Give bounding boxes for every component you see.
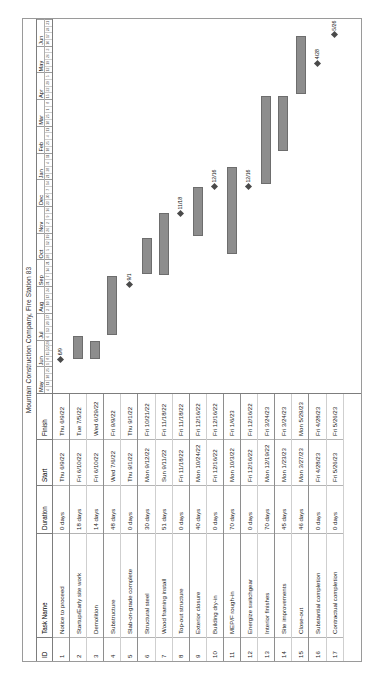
column-header-id[interactable]: ID <box>37 637 52 661</box>
task-name-cell: Energize switchgear <box>241 533 257 637</box>
task-finish-cell: Fri 12/16/22 <box>207 393 223 439</box>
task-id-cell: 17 <box>327 637 343 661</box>
task-start-cell: Wed 7/6/22 <box>104 439 120 485</box>
week-tick: 19 <box>45 234 52 240</box>
gantt-bar[interactable] <box>278 96 288 150</box>
milestone-date-label: 5/26 <box>331 21 337 31</box>
week-tick: 10 <box>45 299 52 306</box>
table-row[interactable]: 1Notice to proceed0 daysThu 6/9/22Thu 6/… <box>53 394 70 661</box>
gantt-row <box>190 19 207 393</box>
task-id-cell: 15 <box>292 637 308 661</box>
week-tick: 4 <box>45 159 52 166</box>
task-start-cell: Fri 4/28/23 <box>309 439 325 485</box>
task-finish-cell: Fri 10/21/22 <box>138 393 154 439</box>
task-duration-cell: 46 days <box>292 485 308 533</box>
gantt-chart-sheet: Mountain Construction Company, Fire Stat… <box>22 18 362 662</box>
task-id-cell: 13 <box>258 637 274 661</box>
task-name-cell: Notice to proceed <box>53 533 69 637</box>
week-tick: 22 <box>45 345 52 350</box>
table-body: 1Notice to proceed0 daysThu 6/9/22Thu 6/… <box>53 394 344 661</box>
milestone-diamond-icon[interactable] <box>126 281 133 288</box>
gantt-bar[interactable] <box>193 187 203 236</box>
task-start-cell: Mon 12/19/22 <box>258 439 274 485</box>
table-row[interactable]: 12Energize switchgear0 daysFri 12/16/22F… <box>241 394 258 661</box>
month-label: Jul <box>37 313 44 340</box>
week-tick: 11 <box>45 154 52 160</box>
task-name-cell: Contractual completion <box>327 533 343 637</box>
gantt-bar[interactable] <box>107 276 117 335</box>
table-row[interactable]: 9Exterior closure40 daysMon 10/24/22Fri … <box>190 394 207 661</box>
table-row[interactable]: 16Substantial completion0 daysFri 4/28/2… <box>309 394 326 661</box>
week-tick: 26 <box>45 52 52 59</box>
column-header-duration[interactable]: Duration <box>37 485 52 533</box>
table-row[interactable]: 6Structural steel30 daysMon 9/12/22Fri 1… <box>138 394 155 661</box>
milestone-diamond-icon[interactable] <box>211 183 218 190</box>
table-row[interactable]: 13Interior finishes70 daysMon 12/19/22Fr… <box>258 394 275 661</box>
week-tick-group: 6132027 <box>45 313 52 340</box>
table-row[interactable]: 2Startup/Early site work18 daysFri 6/10/… <box>70 394 87 661</box>
milestone-diamond-icon[interactable] <box>57 356 64 363</box>
month-label: Oct <box>37 233 44 260</box>
week-tick: 25 <box>45 139 52 146</box>
table-row[interactable]: 4Substructure48 daysWed 7/6/22Fri 9/9/22 <box>104 394 121 661</box>
week-tick: 4 <box>45 132 52 139</box>
gantt-row: 9/1 <box>121 19 138 393</box>
timeline-pane: MayJunJulAugSepOctNovDecJanFebMarAprMayJ… <box>36 19 361 393</box>
gantt-bar[interactable] <box>90 341 100 358</box>
gantt-bar[interactable] <box>227 167 237 254</box>
table-row[interactable]: 8Top-out structure0 daysFri 11/18/22Fri … <box>173 394 190 661</box>
gantt-bar[interactable] <box>73 336 83 358</box>
task-start-cell: Mon 10/3/22 <box>224 439 240 485</box>
gantt-bar[interactable] <box>261 96 271 184</box>
week-tick: 20 <box>45 320 52 327</box>
task-name-cell: Site improvements <box>275 533 291 637</box>
table-row[interactable]: 10Building dry-in0 daysFri 12/16/22Fri 1… <box>207 394 224 661</box>
table-row[interactable]: 15Close-out46 daysMon 3/27/23Mon 5/29/23 <box>292 394 309 661</box>
table-row[interactable]: 7Wood framing install51 daysSun 9/11/22F… <box>156 394 173 661</box>
task-start-cell: Mon 3/27/23 <box>292 439 308 485</box>
task-duration-cell: 70 days <box>224 485 240 533</box>
gantt-bar[interactable] <box>159 214 169 276</box>
gantt-bar[interactable] <box>142 238 152 274</box>
week-tick-group: 1825411 <box>45 126 52 153</box>
task-duration-cell: 0 days <box>309 485 325 533</box>
week-tick: 3 <box>45 306 52 313</box>
month-label: Sep <box>37 259 44 286</box>
task-id-cell: 2 <box>70 637 86 661</box>
week-tick-group: 182518 <box>45 99 52 126</box>
week-tick: 2 <box>45 219 52 226</box>
table-row[interactable]: 14Site improvements45 daysMon 1/23/23Fri… <box>275 394 292 661</box>
week-tick: 18 <box>45 373 52 380</box>
task-finish-cell: Fri 11/18/22 <box>173 393 189 439</box>
task-duration-cell: 0 days <box>327 485 343 533</box>
gantt-row: 11/18 <box>173 19 190 393</box>
week-tick-group: 18152229 <box>45 340 52 367</box>
task-duration-cell: 40 days <box>190 485 206 533</box>
task-name-cell: Interior finishes <box>258 533 274 637</box>
gantt-bar[interactable] <box>296 36 306 94</box>
task-start-cell: Fri 11/18/22 <box>173 439 189 485</box>
milestone-diamond-icon[interactable] <box>331 31 338 38</box>
task-start-cell: Fri 6/10/22 <box>70 439 86 485</box>
table-row[interactable]: 3Demolition14 daysFri 6/10/22Wed 6/29/22 <box>87 394 104 661</box>
milestone-diamond-icon[interactable] <box>245 183 252 190</box>
table-row[interactable]: 5Slab-on-grade complete0 daysThu 9/1/22T… <box>121 394 138 661</box>
task-duration-cell: 48 days <box>104 485 120 533</box>
week-tick-group: 3101724 <box>45 286 52 313</box>
task-duration-cell: 45 days <box>275 485 291 533</box>
task-start-cell: Mon 1/23/23 <box>275 439 291 485</box>
week-tick-group: 1522295 <box>45 72 52 99</box>
table-row[interactable]: 11MEP/F rough-in70 daysMon 10/3/22Fri 1/… <box>224 394 241 661</box>
table-row[interactable]: 17Contractual completion0 daysFri 5/26/2… <box>327 394 344 661</box>
week-tick: 21 <box>45 260 52 266</box>
milestone-diamond-icon[interactable] <box>314 60 321 67</box>
month-label: Jan <box>37 153 44 180</box>
task-name-cell: Substructure <box>104 533 120 637</box>
column-header-start[interactable]: Start <box>37 439 52 485</box>
task-id-cell: 8 <box>173 637 189 661</box>
column-header-task-name[interactable]: Task Name <box>37 533 52 637</box>
week-tick: 27 <box>45 314 52 320</box>
task-name-cell: Demolition <box>87 533 103 637</box>
milestone-diamond-icon[interactable] <box>177 210 184 217</box>
column-header-finish[interactable]: Finish <box>37 393 52 439</box>
